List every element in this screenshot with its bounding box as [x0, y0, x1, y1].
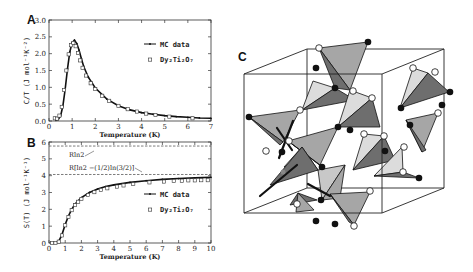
exp-data-marker	[126, 108, 129, 111]
legend-mc-data: MC data	[160, 191, 190, 199]
exp-data-marker	[56, 117, 59, 120]
legend-mc-data: MC data	[160, 41, 190, 49]
exp-data-marker	[76, 51, 79, 54]
filled-spin-site	[347, 127, 354, 134]
exp-data-marker	[67, 215, 70, 218]
open-spin-site	[286, 138, 293, 145]
y-tick-label: 5	[42, 155, 46, 163]
exp-data-marker	[108, 99, 111, 102]
x-tick-label: 2	[79, 245, 83, 253]
y-axis-label: S(T) (J mol⁻¹K⁻¹)	[23, 157, 31, 229]
exp-data-marker	[64, 224, 67, 227]
exp-data-marker	[180, 179, 183, 182]
y-tick-label: 0.0	[35, 118, 46, 126]
exp-data-marker	[81, 66, 84, 69]
open-spin-site	[294, 201, 301, 208]
exp-data-marker	[58, 114, 61, 117]
open-spin-site	[263, 148, 270, 155]
filled-spin-site	[335, 124, 342, 131]
open-spin-site	[350, 88, 357, 95]
exp-data-marker	[57, 240, 60, 243]
spin-arrow	[260, 165, 297, 196]
filled-spin-site	[398, 105, 405, 112]
exp-data-marker	[74, 45, 77, 48]
exp-data-marker	[80, 197, 83, 200]
exp-data-marker	[65, 69, 68, 72]
exp-data-marker	[62, 88, 65, 91]
open-spin-site	[381, 133, 388, 140]
y-tick-label: 0.5	[35, 101, 46, 109]
exp-data-marker	[193, 179, 196, 182]
exp-data-marker	[132, 182, 135, 185]
filled-spin-site	[313, 65, 320, 72]
exp-data-marker	[172, 179, 175, 182]
exp-data-marker	[94, 87, 97, 90]
filled-spin-site	[332, 221, 339, 228]
exp-data-marker	[145, 112, 148, 115]
exp-data-marker	[84, 74, 87, 77]
y-tick-label: 3	[42, 189, 46, 197]
filled-spin-site	[416, 175, 423, 182]
exp-data-marker	[70, 209, 73, 212]
filled-spin-site	[365, 39, 372, 46]
chart-panel-b: 0123456789100123456Temperature (K)S(T) (…	[23, 136, 215, 261]
y-tick-label: 2	[42, 206, 46, 214]
open-spin-site	[297, 107, 304, 114]
exp-data-marker	[77, 200, 80, 203]
exp-data-marker	[93, 191, 96, 194]
exp-data-marker	[154, 113, 157, 116]
exp-data-marker	[73, 204, 76, 207]
exp-data-marker	[60, 105, 63, 108]
exp-data-marker	[187, 179, 190, 182]
x-tick-label: 6	[144, 245, 149, 253]
filled-spin-site	[318, 197, 325, 204]
filled-spin-site	[279, 149, 286, 156]
open-spin-site	[369, 95, 376, 102]
exp-data-marker	[79, 59, 82, 62]
exp-data-marker	[106, 187, 109, 190]
filled-spin-site	[447, 89, 454, 96]
exp-data-marker	[200, 179, 203, 182]
pauling-entropy-annotation: R[ln2 −(1/2)ln(3/2)]	[69, 164, 134, 172]
exp-data-marker	[168, 115, 171, 118]
exp-data-marker	[101, 94, 104, 97]
y-tick-label: 1	[42, 223, 46, 231]
y-tick-label: 4	[42, 172, 47, 180]
exp-data-marker	[72, 41, 75, 44]
exp-data-marker	[117, 104, 120, 107]
y-axis-label: C/T (J mol⁻¹K⁻²)	[23, 37, 31, 104]
exp-data-marker	[115, 185, 118, 188]
exp-data-marker	[162, 180, 165, 183]
filled-spin-site	[313, 218, 320, 225]
cube-edge	[382, 188, 444, 213]
filled-spin-site	[407, 122, 414, 129]
highlighted-site	[281, 170, 286, 175]
open-spin-site	[400, 169, 407, 176]
figure-canvas: 012345670.00.51.01.52.02.53.0Temperature…	[0, 0, 473, 272]
exp-data-marker	[122, 184, 125, 187]
y-tick-label: 0	[42, 240, 46, 248]
exp-data-marker	[206, 179, 209, 182]
x-tick-label: 2	[93, 123, 97, 131]
exp-data-marker	[135, 110, 138, 113]
x-tick-label: 5	[128, 245, 132, 253]
filled-spin-site	[382, 148, 389, 155]
x-tick-label: 5	[162, 123, 166, 131]
filled-spin-site	[246, 114, 253, 121]
exp-data-marker	[86, 193, 89, 196]
x-tick-label: 3	[95, 245, 99, 253]
open-spin-site	[351, 223, 358, 230]
pyrochlore-lattice-diagram: C	[238, 39, 453, 230]
x-tick-label: 4	[112, 245, 117, 253]
x-tick-label: 7	[209, 123, 213, 131]
y-tick-label: 1.5	[35, 67, 46, 75]
y-tick-label: 2.0	[35, 50, 46, 58]
x-tick-label: 7	[160, 245, 164, 253]
y-tick-label: 2.5	[35, 33, 46, 41]
x-tick-label: 4	[139, 123, 144, 131]
x-tick-label: 1	[63, 245, 67, 253]
open-spin-site	[316, 45, 323, 52]
x-tick-label: 8	[176, 245, 180, 253]
filled-spin-site	[332, 85, 339, 92]
plot-frame	[49, 20, 211, 121]
